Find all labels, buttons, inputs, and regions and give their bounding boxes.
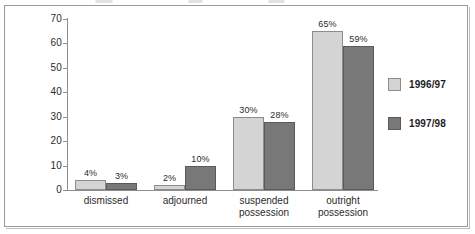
bar-1996-97-adjourned — [154, 185, 185, 190]
category-label-line: outright — [293, 195, 393, 207]
bar-value-label: 4% — [75, 169, 106, 178]
bar-value-label: 30% — [233, 106, 264, 115]
x-axis-baseline — [67, 190, 378, 191]
bar-1997-98-adjourned — [185, 166, 216, 190]
legend-label-1997-98: 1997/98 — [409, 117, 446, 130]
y-tick-label: 50 — [50, 63, 62, 73]
y-tick-label: 40 — [50, 87, 62, 97]
y-tick-mark — [63, 117, 68, 118]
y-tick-label: 30 — [50, 112, 62, 122]
bar-value-label: 10% — [185, 155, 216, 164]
bar-1997-98-suspended-possession — [264, 122, 295, 190]
bar-1996-97-dismissed — [75, 180, 106, 190]
y-tick-label: 60 — [50, 38, 62, 48]
bar-value-label: 2% — [154, 174, 185, 183]
category-label-outright-possession: outright possession — [293, 195, 393, 219]
bar-value-label: 3% — [106, 172, 137, 181]
y-tick-mark — [63, 92, 68, 93]
y-tick-label: 10 — [50, 161, 62, 171]
chart-screenshot: 70 60 50 40 30 20 10 0 4% 3% dismissed 2… — [0, 0, 475, 234]
legend-label-1996-97: 1996/97 — [409, 78, 446, 91]
legend-swatch-1997-98 — [388, 117, 401, 130]
y-tick-mark — [63, 141, 68, 142]
bar-1997-98-outright-possession — [343, 46, 374, 190]
y-tick-mark — [63, 190, 68, 191]
bar-1996-97-outright-possession — [312, 31, 343, 190]
bar-value-label: 28% — [264, 111, 295, 120]
y-tick-mark — [63, 166, 68, 167]
bar-value-label: 59% — [343, 35, 374, 44]
y-tick-label: 20 — [50, 136, 62, 146]
category-label-line: possession — [293, 207, 393, 219]
bar-1997-98-dismissed — [106, 183, 137, 190]
y-tick-mark — [63, 43, 68, 44]
bar-1996-97-suspended-possession — [233, 117, 264, 190]
y-tick-label: 70 — [50, 14, 62, 24]
bar-value-label: 65% — [312, 20, 343, 29]
y-tick-mark — [63, 68, 68, 69]
legend-swatch-1996-97 — [388, 78, 401, 91]
plot-area: 70 60 50 40 30 20 10 0 4% 3% dismissed 2… — [0, 0, 475, 234]
y-tick-mark — [63, 19, 68, 20]
y-tick-label: 0 — [56, 185, 62, 195]
